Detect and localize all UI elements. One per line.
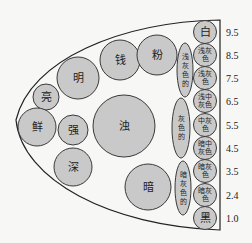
- scale-value: 7.5: [226, 73, 239, 84]
- circle-label: 鲜: [32, 120, 43, 134]
- ellipse-label-char: 的: [182, 79, 189, 88]
- value-scale-group: 白9.5浅灰色8.5浅灰色7.5浅中灰色6.5中灰色5.5暗中灰色4.5暗灰色3…: [194, 21, 239, 230]
- ellipse-label-char: 灰: [180, 179, 187, 188]
- scale-label: 中灰: [198, 116, 212, 125]
- ellipse-label-char: 浅: [182, 52, 189, 61]
- scale-label: 白: [200, 25, 211, 39]
- ellipse-label-char: 的: [180, 197, 187, 206]
- scale-label: 黑: [200, 212, 211, 225]
- term-circle: 钱: [100, 40, 140, 80]
- tone-diagram: 亮明钱粉鲜强深浊暗 浅灰色的灰色的暗灰色的 白9.5浅灰色8.5浅灰色7.5浅中…: [0, 0, 252, 243]
- scale-label: 浅中: [198, 92, 212, 101]
- scale-item: 白9.5: [194, 21, 239, 44]
- scale-value: 2.4: [226, 190, 239, 201]
- scale-value: 4.5: [226, 143, 239, 154]
- scale-label: 浅灰: [198, 46, 212, 55]
- circle-label: 粉: [152, 49, 163, 62]
- ellipse-label-char: 色: [182, 70, 189, 79]
- term-circle: 深: [54, 148, 92, 186]
- scale-label: 色: [202, 54, 209, 63]
- scale-item: 暗灰色3.5: [194, 160, 239, 183]
- ellipse-label-char: 的: [178, 132, 185, 141]
- scale-label: 暗灰: [198, 186, 212, 195]
- ellipses-group: 浅灰色的灰色的暗灰色的: [172, 43, 193, 215]
- scale-item: 暗灰色2.4: [194, 184, 239, 207]
- main-circles-group: 亮明钱粉鲜强深浊暗: [18, 35, 177, 210]
- scale-label: 暗中: [198, 139, 212, 148]
- ellipse-label-char: 灰: [178, 114, 185, 123]
- scale-label: 暗灰: [198, 162, 212, 171]
- scale-label: 色: [202, 170, 209, 179]
- scale-item: 黑1.0: [194, 207, 239, 230]
- term-circle: 强: [58, 115, 88, 145]
- scale-label: 浅灰: [198, 69, 212, 78]
- scale-value: 5.5: [226, 120, 239, 131]
- circle-label: 亮: [41, 90, 52, 104]
- circle-label: 深: [68, 161, 79, 174]
- scale-item: 中灰色5.5: [194, 114, 239, 137]
- term-circle: 鲜: [18, 108, 56, 146]
- circle-label: 浊: [119, 120, 130, 133]
- scale-value: 6.5: [226, 96, 239, 107]
- term-circle: 粉: [137, 35, 177, 75]
- circle-label: 明: [73, 72, 84, 85]
- circle-label: 钱: [115, 53, 126, 67]
- scale-label: 色: [202, 194, 209, 203]
- scale-label: 色: [202, 77, 209, 86]
- scale-label: 色: [202, 124, 209, 133]
- scale-item: 暗中灰色4.5: [194, 137, 239, 160]
- term-circle: 浊: [93, 95, 155, 157]
- scale-item: 浅中灰色6.5: [194, 90, 239, 113]
- term-circle: 暗: [125, 164, 171, 210]
- ellipse-label-char: 暗: [180, 170, 187, 179]
- scale-label: 灰色: [198, 100, 212, 109]
- scale-value: 9.5: [226, 27, 239, 38]
- circle-label: 暗: [143, 180, 154, 194]
- ellipse-label-char: 灰: [182, 61, 189, 70]
- grey-group-ellipse: 灰色的: [172, 98, 190, 158]
- scale-value: 8.5: [226, 50, 239, 61]
- circle-label: 强: [68, 124, 79, 137]
- scale-label: 灰色: [198, 147, 212, 156]
- term-circle: 明: [57, 57, 99, 99]
- scale-item: 浅灰色8.5: [194, 44, 239, 67]
- term-circle: 亮: [33, 84, 59, 110]
- grey-group-ellipse: 浅灰色的: [177, 43, 193, 97]
- scale-item: 浅灰色7.5: [194, 67, 239, 90]
- ellipse-label-char: 色: [180, 188, 187, 197]
- scale-value: 3.5: [226, 166, 239, 177]
- scale-value: 1.0: [226, 213, 239, 224]
- ellipse-label-char: 色: [178, 123, 185, 132]
- grey-group-ellipse: 暗灰色的: [175, 161, 191, 215]
